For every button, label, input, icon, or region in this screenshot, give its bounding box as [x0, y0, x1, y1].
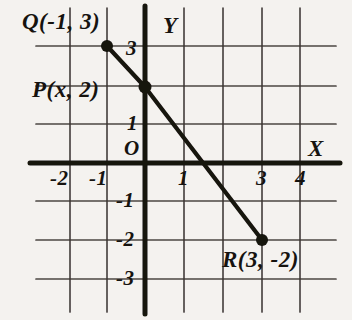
x-tick-label-1: 1	[178, 168, 189, 189]
y-tick-label--3: -3	[116, 268, 135, 289]
x-tick-label-3: 3	[256, 168, 267, 189]
origin-label: O	[124, 138, 140, 159]
y-tick-label--1: -1	[116, 190, 135, 211]
point-label-r: R(3, -2)	[222, 248, 299, 271]
x-tick-label--1: -1	[89, 168, 108, 189]
y-tick-label--2: -2	[116, 229, 135, 250]
x-tick-label--2: -2	[50, 168, 69, 189]
y-tick-label-1: 1	[127, 113, 138, 134]
point-label-p: P(x, 2)	[32, 78, 99, 101]
y-tick-label-3: 3	[126, 38, 137, 59]
point-q-marker	[101, 40, 113, 52]
point-r-marker	[256, 234, 268, 246]
point-p-marker	[139, 81, 152, 94]
y-axis-label: Y	[163, 14, 178, 37]
point-label-q: Q(-1, 3)	[22, 10, 100, 33]
graph-canvas	[0, 0, 352, 320]
x-axis-label: X	[308, 137, 324, 160]
coordinate-plane-figure: Y X O -2 -1 1 3 4 3 1 -1 -2 -3 Q(-1, 3) …	[0, 0, 352, 320]
x-tick-label-4: 4	[295, 168, 306, 189]
